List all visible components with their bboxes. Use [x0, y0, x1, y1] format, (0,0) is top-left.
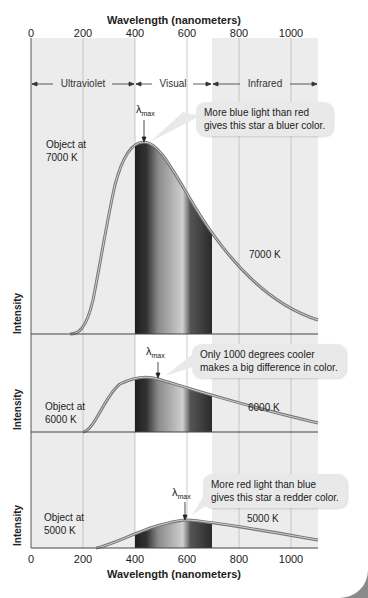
- y-axis-label-3: Intensity: [12, 505, 23, 546]
- callout-text-line2: gives this star a redder color.: [211, 491, 339, 504]
- callout-text-line1: More red light than blue: [211, 478, 339, 491]
- object-label-7000: Object at 7000 K: [46, 138, 86, 164]
- top-tick-200: 200: [74, 27, 92, 39]
- chart-canvas: [0, 0, 368, 598]
- top-tick-1000: 1000: [279, 27, 303, 39]
- object-label-line1: Object at: [46, 138, 86, 151]
- curve-label-7000: 7000 K: [249, 249, 281, 260]
- callout-text-line2: gives this star a bluer color.: [204, 119, 325, 132]
- object-label-line2: 5000 K: [44, 524, 84, 537]
- y-axis-label-2: Intensity: [12, 389, 23, 430]
- lambda-subscript: max: [142, 110, 155, 117]
- object-label-line1: Object at: [44, 511, 84, 524]
- object-label-line2: 6000 K: [45, 413, 85, 426]
- region-visual: Visual: [159, 78, 186, 89]
- region-ultraviolet: Ultraviolet: [61, 78, 105, 89]
- top-tick-400: 400: [126, 27, 144, 39]
- object-label-line1: Object at: [45, 400, 85, 413]
- bottom-tick-1000: 1000: [279, 553, 303, 565]
- bottom-tick-800: 800: [230, 553, 248, 565]
- callout-5000: More red light than blue gives this star…: [203, 474, 347, 508]
- top-tick-0: 0: [28, 27, 34, 39]
- curve-label-5000: 5000 K: [247, 513, 279, 524]
- top-axis-title: Wavelength (nanometers): [107, 14, 241, 26]
- bottom-tick-400: 400: [126, 553, 144, 565]
- object-label-5000: Object at 5000 K: [44, 511, 84, 537]
- callout-text-line1: Only 1000 degrees cooler: [200, 348, 338, 361]
- region-infrared: Infrared: [248, 78, 282, 89]
- lambda-max-label-6000: λmax: [146, 345, 165, 359]
- object-label-6000: Object at 6000 K: [45, 400, 85, 426]
- lambda-subscript: max: [178, 493, 191, 500]
- figure-card: Wavelength (nanometers) 0 200 400 600 80…: [0, 0, 368, 598]
- y-axis-label-1: Intensity: [12, 293, 23, 334]
- curve-label-6000: 6000 K: [248, 402, 280, 413]
- top-tick-600: 600: [178, 27, 196, 39]
- bottom-tick-0: 0: [28, 553, 34, 565]
- bottom-tick-200: 200: [74, 553, 92, 565]
- callout-6000: Only 1000 degrees cooler makes a big dif…: [192, 344, 346, 378]
- bottom-tick-600: 600: [178, 553, 196, 565]
- lambda-max-label-5000: λmax: [172, 486, 191, 500]
- top-tick-800: 800: [230, 27, 248, 39]
- bottom-axis-title: Wavelength (nanometers): [107, 568, 241, 580]
- object-label-line2: 7000 K: [46, 151, 86, 164]
- callout-text-line2: makes a big difference in color.: [200, 361, 338, 374]
- lambda-subscript: max: [152, 352, 165, 359]
- callout-text-line1: More blue light than red: [204, 106, 325, 119]
- lambda-max-label-7000: λmax: [136, 103, 155, 117]
- callout-7000: More blue light than red gives this star…: [196, 102, 333, 136]
